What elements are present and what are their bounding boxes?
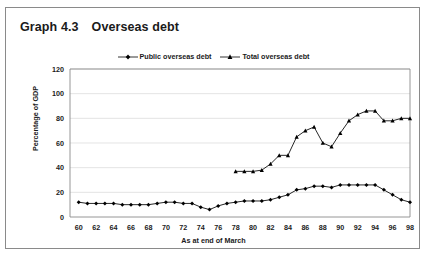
x-axis-label: As at end of March xyxy=(6,236,421,245)
plot-area-wrapper: 0204060801001206062646668707274767880828… xyxy=(6,8,421,250)
x-tick-label: 68 xyxy=(144,223,152,232)
x-tick-label: 78 xyxy=(232,223,240,232)
x-tick-label: 98 xyxy=(406,223,414,232)
y-tick-label: 20 xyxy=(56,188,64,197)
x-tick-label: 66 xyxy=(127,223,135,232)
x-tick-label: 92 xyxy=(354,223,362,232)
x-tick-label: 94 xyxy=(371,223,379,232)
x-tick-label: 62 xyxy=(92,223,100,232)
x-tick-label: 70 xyxy=(162,223,170,232)
x-tick-label: 86 xyxy=(301,223,309,232)
x-tick-label: 74 xyxy=(197,223,205,232)
y-tick-label: 100 xyxy=(52,89,64,98)
x-tick-label: 90 xyxy=(336,223,344,232)
y-tick-label: 80 xyxy=(56,114,64,123)
graph-figure: Graph 4.3Overseas debt Public overseas d… xyxy=(5,7,420,249)
x-tick-label: 72 xyxy=(179,223,187,232)
y-tick-label: 40 xyxy=(56,163,64,172)
x-tick-label: 82 xyxy=(267,223,275,232)
x-tick-label: 88 xyxy=(319,223,327,232)
y-tick-label: 0 xyxy=(60,213,64,222)
x-tick-label: 60 xyxy=(75,223,83,232)
x-tick-label: 84 xyxy=(284,223,292,232)
x-tick-label: 96 xyxy=(389,223,397,232)
y-axis-label: Percentage of GDP xyxy=(31,69,40,169)
x-tick-label: 80 xyxy=(249,223,257,232)
x-tick-label: 64 xyxy=(110,223,118,232)
x-tick-label: 76 xyxy=(214,223,222,232)
chart-canvas: 0204060801001206062646668707274767880828… xyxy=(6,8,421,250)
y-tick-label: 60 xyxy=(56,139,64,148)
y-tick-label: 120 xyxy=(52,65,64,74)
